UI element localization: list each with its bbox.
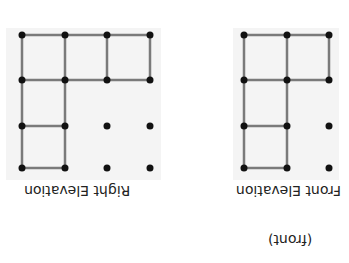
- right-elevation-dots: [19, 32, 154, 172]
- front-elevation-label: Front Elevation: [236, 183, 341, 199]
- right-elevation-label: Right Elevation: [24, 183, 130, 199]
- front-elevation-drawing: [244, 35, 329, 168]
- elevation-diagrams: [0, 0, 349, 263]
- front-caption: (front): [268, 232, 312, 248]
- right-elevation-drawing: [22, 35, 150, 168]
